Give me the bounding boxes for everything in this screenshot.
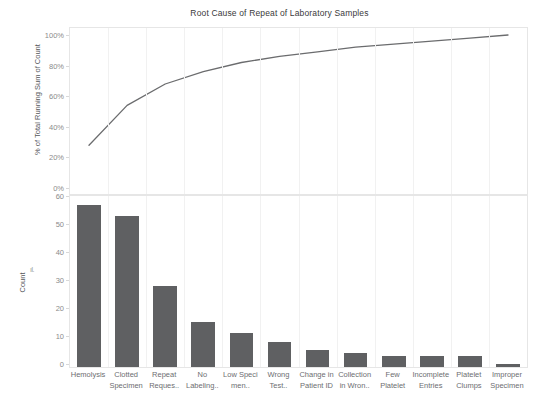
- bar[interactable]: [344, 353, 368, 367]
- x-axis-label[interactable]: Wrong Test..: [259, 370, 297, 391]
- category-gridline: [299, 28, 300, 194]
- sort-descending-icon[interactable]: ıl.: [30, 266, 34, 273]
- x-axis-label[interactable]: Improper Specimen: [488, 370, 526, 391]
- y-tick-label: 60: [40, 192, 64, 201]
- y-tick-mark: [66, 188, 69, 189]
- x-axis-label[interactable]: Repeat Reques..: [145, 370, 183, 391]
- bar[interactable]: [230, 333, 254, 367]
- y-tick-label: 50: [40, 220, 64, 229]
- category-gridline: [489, 196, 490, 367]
- category-gridline: [260, 28, 261, 194]
- category-gridline: [184, 196, 185, 367]
- category-gridline: [222, 196, 223, 367]
- x-axis-label[interactable]: Clotted Specimen: [107, 370, 145, 391]
- y-tick-mark: [66, 35, 69, 36]
- x-axis-labels: HemolysisClotted SpecimenRepeat Reques..…: [69, 370, 528, 416]
- y-tick-mark: [66, 127, 69, 128]
- y-tick-label: 80%: [34, 61, 64, 70]
- category-gridline: [146, 28, 147, 194]
- bar[interactable]: [420, 356, 444, 367]
- bar[interactable]: [191, 322, 215, 367]
- y-tick-label: 0: [40, 360, 64, 369]
- category-gridline: [222, 28, 223, 194]
- pareto-chart-view: Root Cause of Repeat of Laboratory Sampl…: [0, 0, 559, 417]
- y-tick-mark: [66, 252, 69, 253]
- category-gridline: [108, 28, 109, 194]
- category-gridline: [489, 28, 490, 194]
- category-gridline: [184, 28, 185, 194]
- y-tick-label: 60%: [34, 92, 64, 101]
- category-gridline: [337, 28, 338, 194]
- category-gridline: [299, 196, 300, 367]
- bar[interactable]: [306, 350, 330, 367]
- x-axis-label[interactable]: Hemolysis: [69, 370, 107, 381]
- y-tick-label: 30: [40, 276, 64, 285]
- category-gridline: [413, 196, 414, 367]
- y-tick-mark: [66, 196, 69, 197]
- y-tick-mark: [66, 224, 69, 225]
- category-gridline: [375, 28, 376, 194]
- y-tick-label: 20: [40, 304, 64, 313]
- y-tick-mark: [66, 336, 69, 337]
- cumulative-percent-panel: [69, 27, 528, 195]
- bar[interactable]: [115, 216, 139, 367]
- category-gridline: [337, 196, 338, 367]
- bar[interactable]: [458, 356, 482, 367]
- y-tick-label: 100%: [34, 31, 64, 40]
- y-tick-mark: [66, 157, 69, 158]
- x-axis-label[interactable]: Collection in Wron..: [336, 370, 374, 391]
- chart-title: Root Cause of Repeat of Laboratory Sampl…: [0, 8, 559, 18]
- y-tick-mark: [66, 308, 69, 309]
- y-tick-mark: [66, 280, 69, 281]
- x-axis-label[interactable]: No Labeling..: [183, 370, 221, 391]
- bar[interactable]: [153, 286, 177, 367]
- category-gridline: [375, 196, 376, 367]
- bar[interactable]: [77, 205, 101, 367]
- category-gridline: [146, 196, 147, 367]
- bar[interactable]: [496, 364, 520, 367]
- y-tick-label: 20%: [34, 153, 64, 162]
- bar[interactable]: [382, 356, 406, 367]
- count-bars-panel: [69, 195, 528, 368]
- y-tick-mark: [66, 96, 69, 97]
- y-tick-mark: [66, 364, 69, 365]
- x-axis-label[interactable]: Low Speci men..: [221, 370, 259, 391]
- category-gridline: [108, 196, 109, 367]
- y-tick-mark: [66, 66, 69, 67]
- category-gridline: [451, 196, 452, 367]
- x-axis-label[interactable]: Incomplete Entries: [412, 370, 450, 391]
- y-tick-label: 10: [40, 332, 64, 341]
- x-axis-label[interactable]: Change in Patient ID: [298, 370, 336, 391]
- category-gridline: [451, 28, 452, 194]
- category-gridline: [413, 28, 414, 194]
- y-tick-label: 40%: [34, 122, 64, 131]
- bar[interactable]: [268, 342, 292, 367]
- x-axis-label[interactable]: Few Platelet: [374, 370, 412, 391]
- category-gridline: [260, 196, 261, 367]
- x-axis-label[interactable]: Platelet Clumps: [450, 370, 488, 391]
- bottom-y-axis-title: Count: [18, 253, 27, 313]
- y-tick-label: 40: [40, 248, 64, 257]
